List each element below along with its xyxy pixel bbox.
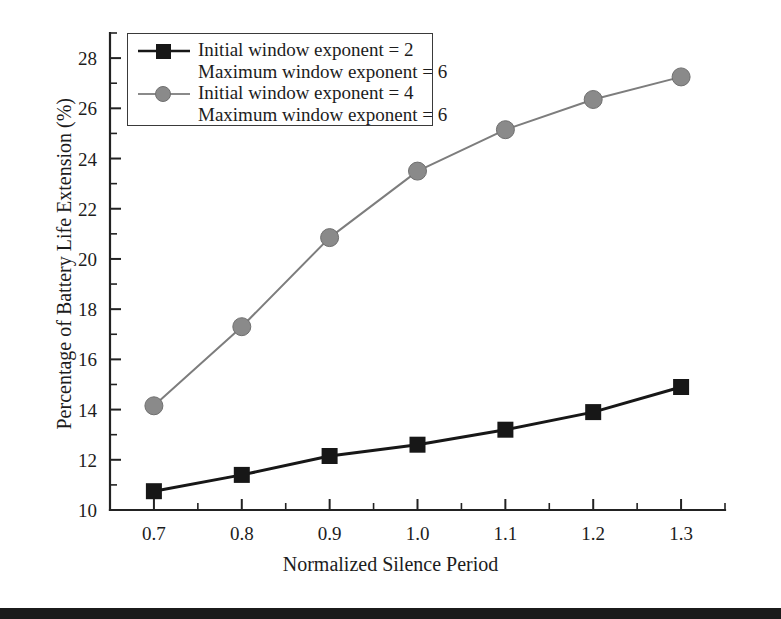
legend-entry-2-line-1: Initial window exponent = 4 [198,82,426,104]
square-marker-icon [136,42,192,60]
y-tick-label: 10 [78,500,97,521]
data-point-marker [145,397,163,415]
legend-entry-1-line-2: Maximum window exponent = 6 [198,61,426,83]
x-tick-label: 1.1 [493,523,517,544]
legend-entry-series-2: Initial window exponent = 4 Maximum wind… [136,82,426,125]
data-point-marker [585,404,601,420]
data-point-marker [497,422,513,438]
x-tick-label: 1.3 [669,523,693,544]
y-tick-label: 18 [78,299,97,320]
y-tick-label: 26 [78,98,97,119]
y-tick-label: 28 [78,48,97,69]
data-point-marker [409,162,427,180]
y-tick-label: 14 [78,400,98,421]
data-point-marker [673,379,689,395]
y-tick-label: 16 [78,349,97,370]
x-tick-label: 1.0 [406,523,430,544]
x-axis-title: Normalized Silence Period [0,553,781,576]
x-tick-label: 1.2 [581,523,605,544]
y-tick-label: 24 [78,149,98,170]
data-point-marker [234,467,250,483]
data-point-marker [322,448,338,464]
data-point-marker [496,121,514,139]
x-tick-label: 0.9 [318,523,342,544]
chart-figure: 10121416182022242628 0.70.80.91.01.11.21… [0,0,781,619]
y-tick-label: 12 [78,450,97,471]
series-line-2 [154,77,681,406]
data-point-marker [233,318,251,336]
data-point-marker [410,437,426,453]
chart-legend: Initial window exponent = 2 Maximum wind… [127,33,433,126]
chart-series-group [145,68,690,499]
x-tick-label: 0.8 [230,523,254,544]
page-footer-bar [0,608,781,619]
y-tick-label: 22 [78,199,97,220]
circle-marker-icon [136,85,192,103]
x-tick-marks: 0.70.80.91.01.11.21.3 [142,499,725,544]
y-tick-marks: 10121416182022242628 [78,33,121,521]
legend-entry-series-1: Initial window exponent = 2 Maximum wind… [136,39,426,82]
legend-entry-2-line-2: Maximum window exponent = 6 [198,104,426,126]
legend-entry-1-line-1: Initial window exponent = 2 [198,39,426,61]
data-point-marker [584,91,602,109]
x-tick-label: 0.7 [142,523,166,544]
data-point-marker [672,68,690,86]
y-axis-title: Percentage of Battery Life Extension (%) [53,110,76,430]
y-tick-label: 20 [78,249,97,270]
data-point-marker [321,229,339,247]
data-point-marker [146,483,162,499]
